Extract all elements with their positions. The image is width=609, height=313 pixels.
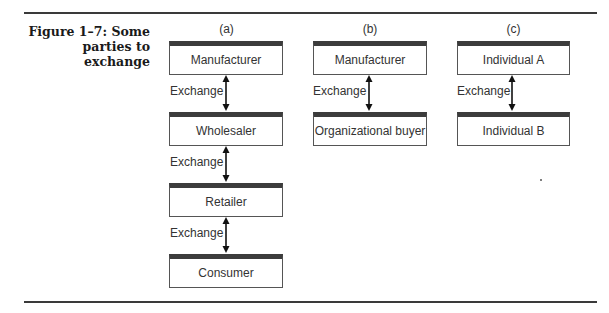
box-manufacturer-b: Manufacturer <box>313 41 427 75</box>
double-arrow-icon <box>221 217 231 253</box>
box-manufacturer-a: Manufacturer <box>169 41 283 75</box>
figure-caption: Figure 1–7: Some parties to exchange <box>20 24 150 69</box>
box-retailer: Retailer <box>169 183 283 217</box>
box-individual-a: Individual A <box>457 41 570 75</box>
column-c-label: (c) <box>457 22 570 36</box>
caption-line-2: parties to exchange <box>20 39 150 69</box>
column-a-label: (a) <box>169 22 284 36</box>
box-individual-b: Individual B <box>457 112 570 146</box>
box-consumer: Consumer <box>169 254 283 288</box>
double-arrow-icon <box>221 146 231 182</box>
double-arrow-icon <box>507 75 517 111</box>
box-wholesaler: Wholesaler <box>169 112 283 146</box>
exchange-label: Exchange <box>457 84 510 98</box>
column-b-label: (b) <box>313 22 427 36</box>
exchange-label: Exchange <box>313 84 366 98</box>
double-arrow-icon <box>221 75 231 111</box>
exchange-label: Exchange <box>170 226 223 240</box>
double-arrow-icon <box>364 75 374 111</box>
caption-line-1: Figure 1–7: Some <box>20 24 150 39</box>
bottom-rule <box>24 301 597 303</box>
stray-mark <box>540 179 542 181</box>
exchange-label: Exchange <box>170 84 223 98</box>
box-organizational-buyer: Organizational buyer <box>313 112 427 146</box>
top-rule <box>24 12 597 14</box>
exchange-label: Exchange <box>170 155 223 169</box>
